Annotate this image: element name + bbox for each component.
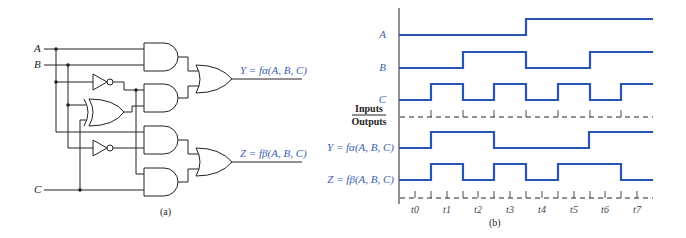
figure: A B C xyxy=(0,0,686,238)
signal-label-b: B xyxy=(379,61,386,73)
and-gate-1 xyxy=(144,43,178,71)
input-label-b: B xyxy=(34,58,41,70)
and-gate-3 xyxy=(144,126,178,154)
caption-a: (a) xyxy=(160,206,171,218)
inputs-label: Inputs xyxy=(355,103,383,114)
not-gate-2 xyxy=(93,140,113,156)
time-label-t4: t4 xyxy=(538,204,546,215)
time-label-t5: t5 xyxy=(570,204,578,215)
or-gate-z xyxy=(196,148,232,176)
time-label-t3: t3 xyxy=(506,204,514,215)
waveform-y xyxy=(399,132,653,148)
signal-label-y: Y = fα(A, B, C) xyxy=(327,141,394,154)
waveform-b xyxy=(399,52,653,68)
not-gate-1 xyxy=(93,74,113,90)
outputs-label: Outputs xyxy=(351,116,386,127)
waveform-a xyxy=(399,19,653,35)
time-label-t1: t1 xyxy=(443,204,451,215)
output-label-z: Z = fβ(A, B, C) xyxy=(240,147,307,160)
caption-b: (b) xyxy=(489,217,501,229)
and-gate-2 xyxy=(144,84,178,112)
or-gate-y xyxy=(196,65,232,93)
time-label-t0: t0 xyxy=(411,204,419,215)
and-gate-4 xyxy=(144,168,178,196)
logic-circuit: A B C xyxy=(33,42,307,218)
input-label-a: A xyxy=(33,42,41,54)
output-label-y: Y = fα(A, B, C) xyxy=(240,64,307,77)
signal-label-a: A xyxy=(378,28,386,40)
time-label-t2: t2 xyxy=(474,204,482,215)
waveform-z xyxy=(399,164,653,180)
signal-label-z: Z = fβ(A, B, C) xyxy=(327,173,394,186)
input-label-c: C xyxy=(34,183,42,195)
xor-gate xyxy=(84,99,124,126)
time-label-t7: t7 xyxy=(633,204,642,215)
time-label-t6: t6 xyxy=(601,204,609,215)
waveform-c xyxy=(399,84,653,100)
timing-diagram: A B C Y = fα(A, B, C) Z = fβ(A, B, C) In… xyxy=(327,8,653,229)
